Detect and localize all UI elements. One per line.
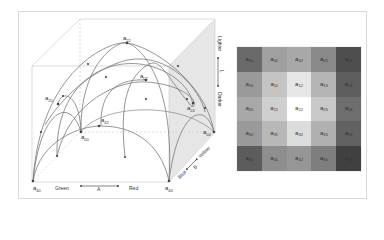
grid-cell-label: a04	[345, 56, 353, 63]
grid-cell-label: a44	[345, 155, 353, 162]
grid-cell-label: a40	[246, 155, 254, 162]
grid-cell-label: a43	[320, 155, 328, 162]
grid-cell-a04: a04	[336, 47, 361, 72]
grid-cell-label: a03	[320, 56, 328, 63]
grid-cell-a32: a32	[287, 121, 312, 146]
grid-cell-label: a13	[320, 81, 328, 88]
grid-cell-a03: a03	[311, 47, 336, 72]
grid-cell-a21: a21	[262, 97, 287, 122]
grid-cell-a22: a22	[287, 97, 312, 122]
label-a02: a02	[140, 73, 149, 81]
a-axis-red-label: Red	[129, 185, 138, 191]
grid-cell-label: a33	[320, 130, 328, 137]
label-a42: a42	[101, 117, 110, 125]
grid-cell-a41: a41	[262, 146, 287, 171]
grid-cell-a13: a13	[311, 72, 336, 97]
grid-cell-a43: a43	[311, 146, 336, 171]
grid-cell-a14: a14	[336, 72, 361, 97]
grid-cell-a00: a00	[237, 47, 262, 72]
grid-cell-label: a20	[246, 105, 254, 112]
a-axis-green-label: Green	[55, 185, 69, 191]
label-a44: a44	[165, 185, 174, 193]
grid-cell-a02: a02	[287, 47, 312, 72]
l-axis: Lighter L Darker	[217, 36, 225, 107]
grid-cell-a40: a40	[237, 146, 262, 171]
l-axis-label: L	[219, 70, 225, 73]
color-grid: a00a01a02a03a04a10a11a12a13a14a20a21a22a…	[237, 47, 361, 171]
l-axis-darker-label: Darker	[217, 92, 223, 107]
label-a40: a40	[33, 185, 42, 193]
grid-cell-a23: a23	[311, 97, 336, 122]
grid-cell-a44: a44	[336, 146, 361, 171]
grid-cell-a10: a10	[237, 72, 262, 97]
b-axis-label: B	[192, 163, 199, 170]
grid-cell-a33: a33	[311, 121, 336, 146]
grid-cell-a34: a34	[336, 121, 361, 146]
grid-cell-a24: a24	[336, 97, 361, 122]
label-a20: a20	[45, 95, 54, 103]
grid-cell-label: a12	[295, 81, 303, 88]
grid-cell-label: a32	[295, 130, 303, 137]
a-axis: Green A Red	[55, 185, 138, 192]
grid-cell-label: a00	[246, 56, 254, 63]
grid-cell-label: a24	[345, 105, 353, 112]
grid-cell-a42: a42	[287, 146, 312, 171]
label-a22: a22	[123, 35, 132, 43]
grid-cell-label: a14	[345, 81, 353, 88]
grid-cell-label: a11	[270, 81, 278, 88]
grid-cell-a01: a01	[262, 47, 287, 72]
grid-cell-label: a01	[270, 56, 278, 63]
grid-cell-a11: a11	[262, 72, 287, 97]
grid-cell-label: a41	[270, 155, 278, 162]
grid-cell-label: a02	[295, 56, 303, 63]
grid-cell-label: a31	[270, 130, 278, 137]
grid-cell-label: a30	[246, 130, 254, 137]
grid-cell-label: a42	[295, 155, 303, 162]
grid-cell-label: a10	[246, 81, 254, 88]
grid-cell-label: a22	[295, 105, 303, 112]
l-axis-lighter-label: Lighter	[217, 36, 223, 52]
grid-cell-label: a23	[320, 105, 328, 112]
label-a00: a00	[81, 134, 90, 142]
grid-cell-a31: a31	[262, 121, 287, 146]
grid-cell-a20: a20	[237, 97, 262, 122]
grid-cell-a12: a12	[287, 72, 312, 97]
a-axis-label: A	[97, 186, 101, 192]
grid-cell-label: a21	[270, 105, 278, 112]
grid-cell-label: a34	[345, 130, 353, 137]
grid-cell-a30: a30	[237, 121, 262, 146]
